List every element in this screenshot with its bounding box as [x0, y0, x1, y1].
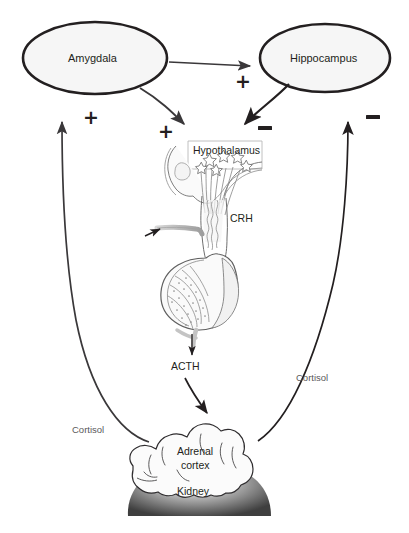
- arrow-hippocampus-to-hypothalamus: [245, 84, 289, 124]
- sign-minus-hippocampus-to-hypothalamus: [258, 126, 272, 130]
- label-crh: CRH: [230, 213, 253, 224]
- arrow-cortisol-to-hippocampus: [258, 122, 348, 441]
- label-hypothalamus: Hypothalamus: [193, 145, 260, 156]
- label-acth: ACTH: [171, 361, 200, 372]
- sign-minus-hippocampus-feedback: [366, 115, 380, 119]
- arrow-amygdala-to-hypothalamus: [140, 88, 184, 124]
- arrow-cortisol-to-amygdala: [62, 122, 149, 442]
- diagram-canvas: Amygdala Hippocampus Hypothalamus CRH AC…: [0, 0, 409, 533]
- arrow-amygdala-to-hippocampus: [169, 62, 250, 66]
- label-adrenal-cortex-line1: Adrenal: [177, 446, 213, 457]
- sign-plus-amygdala-to-hypothalamus: +: [158, 122, 174, 141]
- arrow-acth-to-adrenal: [185, 378, 207, 413]
- label-kidney: Kidney: [177, 486, 209, 497]
- node-label-amygdala: Amygdala: [68, 53, 117, 64]
- node-label-hippocampus: Hippocampus: [290, 53, 357, 64]
- sign-plus-amygdala-to-hippocampus: +: [235, 72, 251, 91]
- sign-plus-amygdala-feedback: +: [83, 108, 99, 127]
- hypothalamus-pituitary-illustration: [145, 141, 262, 348]
- label-adrenal-cortex-line2: cortex: [181, 460, 210, 471]
- label-cortisol-left: Cortisol: [72, 425, 104, 435]
- label-cortisol-right: Cortisol: [296, 373, 328, 383]
